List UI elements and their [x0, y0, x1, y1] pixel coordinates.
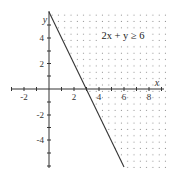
- y-tick-label: -4: [37, 135, 45, 145]
- x-tick-label: -2: [20, 92, 28, 102]
- x-tick-label: 8: [147, 92, 152, 102]
- x-tick-label: 4: [97, 92, 102, 102]
- inequality-label: 2x + y ≥ 6: [101, 30, 144, 41]
- inequality-graph: -2 2 4 6 8 x 4 2 -2 -4 y 2x + y ≥ 6: [0, 0, 172, 180]
- y-tick-label: 2: [40, 59, 45, 69]
- x-tick-label: 2: [72, 92, 77, 102]
- x-axis-label: x: [154, 77, 160, 88]
- x-tick-label: 6: [122, 92, 127, 102]
- y-tick-label: 4: [40, 33, 45, 43]
- y-axis-label: y: [42, 14, 48, 25]
- y-tick-label: -2: [37, 110, 45, 120]
